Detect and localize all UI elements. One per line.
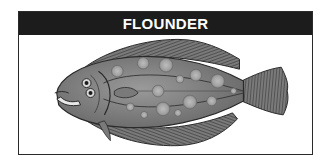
title-banner: FLOUNDER [19,12,312,35]
title-text: FLOUNDER [123,15,209,32]
flounder-card: FLOUNDER [18,11,313,155]
flounder-illustration [19,35,312,155]
eye-upper [82,79,91,88]
eye-lower [86,89,95,98]
tail-fin [241,67,287,115]
fish-body [57,57,244,128]
